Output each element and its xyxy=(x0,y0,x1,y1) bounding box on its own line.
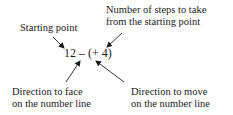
arrow-steps xyxy=(107,33,122,47)
arrows-layer xyxy=(0,0,233,115)
arrow-direction-move xyxy=(96,61,124,82)
arrow-direction-face xyxy=(66,61,80,82)
arrow-starting-point xyxy=(53,37,64,48)
